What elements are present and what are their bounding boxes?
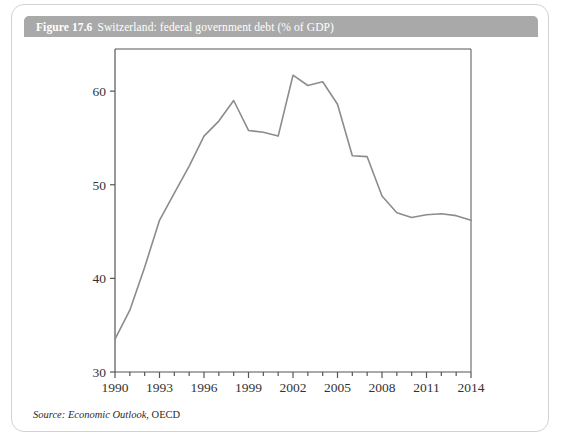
- y-tick-label: 30: [93, 365, 107, 380]
- figure-title-bar: Figure 17.6Switzerland: federal governme…: [24, 16, 538, 37]
- x-tick-label: 2014: [458, 380, 485, 395]
- figure-title: Figure 17.6Switzerland: federal governme…: [36, 21, 334, 33]
- plot-background: [115, 49, 471, 372]
- figure-title-text: Switzerland: federal government debt (% …: [97, 21, 334, 33]
- x-tick-label: 1996: [191, 380, 218, 395]
- source-organization: , OECD: [146, 409, 180, 420]
- y-tick-label: 60: [93, 84, 107, 99]
- y-tick-label: 40: [93, 271, 107, 286]
- line-chart: 3040506019901993199619992002200520082011…: [12, 5, 550, 433]
- x-tick-label: 2002: [280, 380, 307, 395]
- source-publication: Economic Outlook: [68, 409, 146, 420]
- x-tick-label: 2005: [324, 380, 351, 395]
- x-tick-label: 2008: [369, 380, 396, 395]
- x-tick-label: 1993: [146, 380, 173, 395]
- chart-root: 3040506019901993199619992002200520082011…: [93, 49, 485, 395]
- x-tick-label: 2011: [413, 380, 440, 395]
- source-note: Source: Economic Outlook, OECD: [33, 409, 180, 420]
- y-tick-label: 50: [93, 178, 107, 193]
- x-tick-label: 1990: [102, 380, 129, 395]
- x-tick-label: 1999: [235, 380, 262, 395]
- figure-card: Figure 17.6Switzerland: federal governme…: [11, 4, 549, 432]
- source-label: Source:: [33, 409, 65, 420]
- figure-number: Figure 17.6: [36, 21, 92, 33]
- data-line-federal-debt: [115, 75, 471, 339]
